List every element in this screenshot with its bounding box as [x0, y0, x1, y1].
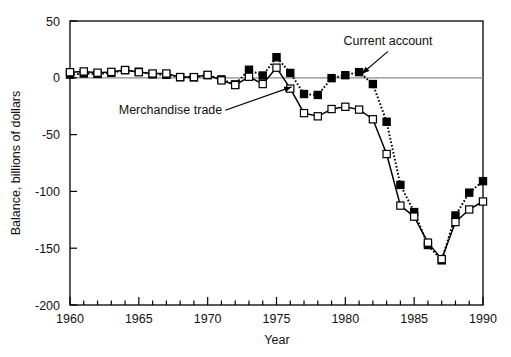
y-tick-label: -100 [35, 185, 60, 199]
data-point-marker [163, 70, 170, 77]
data-point-marker [369, 116, 376, 123]
data-point-marker [273, 54, 280, 61]
data-point-marker [232, 81, 239, 88]
data-point-marker [66, 69, 73, 76]
data-point-marker [397, 181, 404, 188]
data-point-marker [149, 70, 156, 77]
y-tick-label: -50 [42, 128, 60, 142]
data-point-marker [218, 77, 225, 84]
y-tick-label: -150 [35, 242, 60, 256]
data-point-marker [342, 72, 349, 79]
x-tick-label: 1990 [469, 312, 497, 326]
data-point-marker [314, 91, 321, 98]
data-point-marker [121, 66, 128, 73]
data-point-marker [438, 256, 445, 263]
x-tick-label: 1975 [263, 312, 291, 326]
data-point-marker [259, 72, 266, 79]
data-point-marker [94, 69, 101, 76]
x-tick-label: 1960 [56, 312, 84, 326]
annotation-label-1: Current account [344, 34, 433, 48]
x-tick-label: 1980 [331, 312, 359, 326]
data-point-marker [204, 71, 211, 78]
balance-of-payments-line-chart: 500-50-100-150-200 196019651970197519801… [0, 0, 511, 357]
data-point-marker [342, 103, 349, 110]
data-point-marker [479, 178, 486, 185]
data-point-marker [177, 74, 184, 81]
data-point-marker [397, 202, 404, 209]
data-point-marker [466, 206, 473, 213]
data-point-marker [328, 75, 335, 82]
chart-background [0, 0, 511, 357]
data-point-marker [328, 105, 335, 112]
data-point-marker [411, 213, 418, 220]
data-point-marker [383, 118, 390, 125]
x-tick-label: 1965 [125, 312, 153, 326]
data-point-marker [273, 64, 280, 71]
x-tick-label: 1985 [400, 312, 428, 326]
y-tick-label: -200 [35, 299, 60, 313]
x-tick-label: 1970 [194, 312, 222, 326]
x-axis-title: Year [264, 333, 289, 347]
figure-container: 500-50-100-150-200 196019651970197519801… [0, 0, 511, 357]
data-point-marker [300, 110, 307, 117]
data-point-marker [479, 198, 486, 205]
data-point-marker [424, 239, 431, 246]
data-point-marker [259, 80, 266, 87]
y-tick-label: 50 [46, 15, 60, 29]
data-point-marker [300, 90, 307, 97]
y-axis-title: Balance, billions of dollars [9, 91, 23, 236]
data-point-marker [80, 68, 87, 75]
data-point-marker [356, 69, 363, 76]
data-point-marker [369, 80, 376, 87]
data-point-marker [452, 218, 459, 225]
data-point-marker [135, 69, 142, 76]
data-point-marker [245, 66, 252, 73]
data-point-marker [245, 73, 252, 80]
data-point-marker [466, 189, 473, 196]
data-point-marker [108, 68, 115, 75]
data-point-marker [356, 106, 363, 113]
y-tick-label: 0 [53, 71, 60, 85]
data-point-marker [287, 69, 294, 76]
data-point-marker [314, 113, 321, 120]
data-point-marker [190, 74, 197, 81]
annotation-label-2: Merchandise trade [119, 103, 223, 117]
data-point-marker [383, 150, 390, 157]
